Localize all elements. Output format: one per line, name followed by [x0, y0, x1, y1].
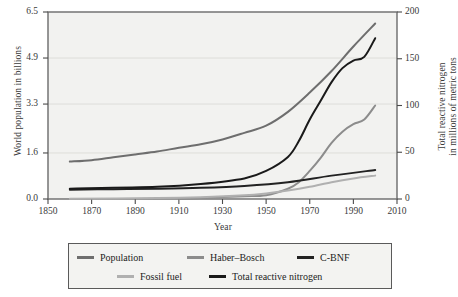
legend-color-swatch — [187, 256, 204, 258]
y-axis-right-tick-label: 100 — [405, 100, 435, 110]
x-axis-tick-label: 1910 — [159, 206, 199, 216]
legend-item[interactable]: C-BNF — [297, 252, 349, 263]
legend-color-swatch — [297, 256, 314, 258]
y-axis-right-tick-label: 200 — [405, 6, 435, 16]
x-axis-tick-label: 1890 — [115, 206, 155, 216]
chart-legend: PopulationHaber–BoschC-BNF Fossil fuelTo… — [68, 243, 392, 289]
legend-color-swatch — [117, 275, 134, 277]
legend-item-label: Fossil fuel — [140, 271, 182, 282]
y-axis-right-tick-label: 150 — [405, 53, 435, 63]
y-axis-right-tick-label: 50 — [405, 146, 435, 156]
y-axis-left-tick-label: 6.5 — [8, 6, 38, 16]
x-axis-title: Year — [48, 222, 398, 232]
legend-item-label: Total reactive nitrogen — [232, 271, 322, 282]
y-axis-left-tick-label: 0.0 — [8, 193, 38, 203]
x-axis-tick-label: 1990 — [333, 206, 373, 216]
legend-row-bottom: Fossil fuelTotal reactive nitrogen — [69, 268, 391, 285]
x-axis-tick-label: 1850 — [28, 206, 68, 216]
y-axis-left-tick-label: 1.6 — [8, 147, 38, 157]
y-axis-right-tick-label: 0 — [405, 193, 435, 203]
legend-item[interactable]: Total reactive nitrogen — [209, 271, 322, 282]
legend-item-label: Haber–Bosch — [210, 252, 264, 263]
y-axis-right-title-line1: Total reactive nitrogen — [437, 12, 448, 202]
legend-color-swatch — [77, 256, 94, 258]
legend-row-top: PopulationHaber–BoschC-BNF — [69, 249, 391, 266]
x-axis-tick-label: 1970 — [290, 206, 330, 216]
x-axis-tick-label: 1870 — [72, 206, 112, 216]
x-axis-tick-label: 1950 — [246, 206, 286, 216]
y-axis-right-title-line2: in millions of metric tons — [447, 12, 458, 202]
plot-background — [48, 12, 397, 199]
x-axis-tick-label: 1930 — [203, 206, 243, 216]
legend-item[interactable]: Fossil fuel — [117, 271, 182, 282]
y-axis-left-tick-label: 4.9 — [8, 52, 38, 62]
y-axis-left-tick-label: 3.3 — [8, 98, 38, 108]
legend-item[interactable]: Haber–Bosch — [187, 252, 264, 263]
x-axis-tick-label: 2010 — [377, 206, 417, 216]
legend-color-swatch — [209, 275, 226, 277]
legend-item[interactable]: Population — [77, 252, 143, 263]
y-axis-right-title: Total reactive nitrogen in millions of m… — [437, 12, 458, 202]
legend-item-label: Population — [100, 252, 143, 263]
legend-item-label: C-BNF — [320, 252, 349, 263]
